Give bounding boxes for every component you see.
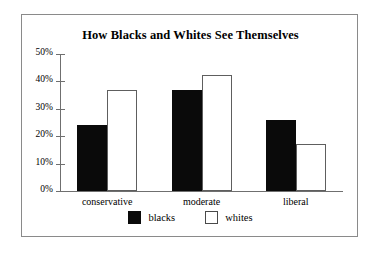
y-tick-mark bbox=[56, 136, 65, 137]
legend-swatch-blacks-icon bbox=[128, 211, 141, 224]
y-tick-label: 0% bbox=[40, 184, 53, 194]
chart-frame: How Blacks and Whites See Themselves 50%… bbox=[21, 14, 358, 237]
legend-item-blacks: blacks bbox=[128, 211, 175, 224]
chart-legend: blacks whites bbox=[22, 211, 359, 224]
chart-title: How Blacks and Whites See Themselves bbox=[22, 28, 359, 43]
y-tick-mark bbox=[56, 54, 65, 55]
bar-blacks-conservative bbox=[77, 125, 107, 191]
category-label-conservative: conservative bbox=[60, 196, 154, 207]
category-label-liberal: liberal bbox=[249, 196, 343, 207]
category-label-moderate: moderate bbox=[154, 196, 248, 207]
y-tick-label: 10% bbox=[36, 157, 53, 167]
bar-whites-moderate bbox=[202, 75, 232, 191]
x-axis-line bbox=[60, 191, 343, 192]
y-tick-label: 20% bbox=[36, 129, 53, 139]
y-tick-mark bbox=[56, 191, 65, 192]
legend-label-blacks: blacks bbox=[148, 212, 175, 223]
y-axis-line bbox=[60, 54, 61, 191]
y-tick-mark bbox=[56, 164, 65, 165]
y-tick-mark bbox=[56, 81, 65, 82]
legend-item-whites: whites bbox=[205, 211, 252, 224]
bar-whites-liberal bbox=[296, 144, 326, 191]
chart-figure: How Blacks and Whites See Themselves 50%… bbox=[0, 0, 380, 257]
y-tick-label: 30% bbox=[36, 102, 53, 112]
y-tick-label: 40% bbox=[36, 74, 53, 84]
y-tick-mark bbox=[56, 109, 65, 110]
bar-blacks-moderate bbox=[172, 90, 202, 191]
plot-area: 50%40%30%20%10%0% conservativemoderateli… bbox=[60, 54, 343, 191]
legend-label-whites: whites bbox=[225, 212, 252, 223]
legend-swatch-whites-icon bbox=[205, 211, 218, 224]
bar-whites-conservative bbox=[107, 90, 137, 191]
bar-blacks-liberal bbox=[266, 120, 296, 191]
y-tick-label: 50% bbox=[36, 47, 53, 57]
